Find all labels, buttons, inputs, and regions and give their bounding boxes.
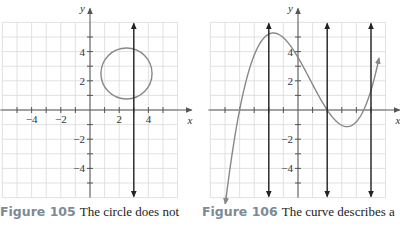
caption-label: Figure 106 — [202, 204, 278, 219]
y-tick-label: 2 — [80, 75, 86, 87]
curve-start-arrow — [225, 195, 226, 204]
y-tick-label: −2 — [73, 133, 85, 145]
y-axis-label: y — [79, 2, 85, 14]
figure-105: −4−22442−2−4xy Figure 105The circle does… — [0, 0, 200, 228]
circle-curve — [101, 48, 152, 99]
y-tick-label: −4 — [281, 162, 293, 174]
x-tick-label: 4 — [146, 113, 152, 125]
y-axis-label: y — [287, 2, 293, 14]
y-tick-label: −4 — [73, 162, 85, 174]
figure-105-caption: Figure 105The circle does not — [0, 204, 200, 228]
x-tick-label: −2 — [55, 113, 67, 125]
x-tick-label: 2 — [116, 113, 122, 125]
y-tick-label: 2 — [288, 75, 294, 87]
caption-label: Figure 105 — [0, 204, 76, 219]
figure-106: 42−2−4xy Figure 106The curve describes a — [200, 0, 400, 228]
cubic-curve-graph: 42−2−4xy — [200, 0, 400, 204]
figure-106-caption: Figure 106The curve describes a — [202, 204, 400, 228]
x-axis-label: x — [187, 114, 193, 126]
caption-text: The circle does not — [80, 204, 179, 219]
caption-text: The curve describes a — [282, 204, 395, 219]
y-tick-label: 4 — [288, 46, 294, 58]
x-axis-label: x — [395, 114, 400, 126]
y-tick-label: 4 — [80, 46, 86, 58]
y-tick-label: −2 — [281, 133, 293, 145]
circle-graph: −4−22442−2−4xy — [0, 0, 200, 204]
x-tick-label: −4 — [26, 113, 38, 125]
